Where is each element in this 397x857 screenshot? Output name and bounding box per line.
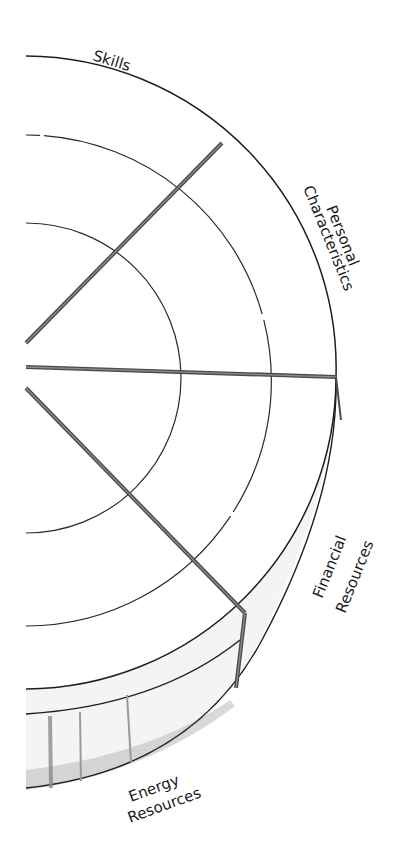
label-skills: Skills xyxy=(91,47,133,76)
band-divider xyxy=(50,716,51,788)
spokes xyxy=(26,143,341,688)
spoke-band-right xyxy=(336,377,341,420)
outer-band xyxy=(26,377,336,790)
middle-ring xyxy=(26,135,271,626)
inner-ring xyxy=(26,223,181,533)
band-divider xyxy=(80,712,81,781)
wheel-diagram: Skills Personal Characteristics Financia… xyxy=(0,0,397,857)
